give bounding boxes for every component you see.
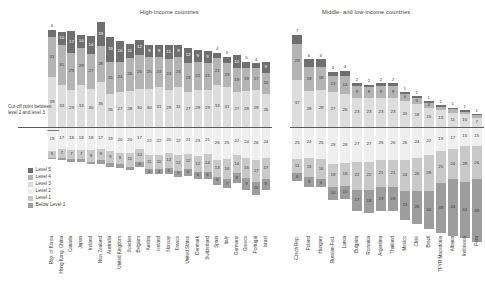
bar-value-label: 24	[414, 140, 419, 144]
bar-segment: 9	[87, 150, 95, 162]
bar-segment: 10	[77, 35, 85, 48]
category-label: Italy	[223, 236, 231, 290]
bar-segment: 11	[448, 113, 458, 127]
bar-segment: 27	[352, 127, 362, 162]
bar-value-label: 28	[127, 107, 132, 111]
category-label: Portugal	[252, 236, 260, 290]
bar-segment: 11	[165, 45, 173, 59]
legend-label: Level 5	[36, 168, 51, 173]
bar-value-label: 9	[99, 152, 101, 156]
bar-segment: 10	[328, 187, 338, 200]
bar-value-label: 5	[167, 169, 169, 173]
bar-value-label: 28	[98, 62, 103, 66]
legend-item: Level 5	[28, 168, 65, 173]
bar-value-label: 5	[177, 171, 179, 175]
bar-value-label: 26	[414, 205, 419, 209]
legend-swatch-icon	[28, 203, 33, 208]
bar-value-label: 26	[215, 141, 220, 145]
bar-segment: 9	[262, 62, 270, 74]
bar-column: 332910187	[77, 16, 85, 153]
bar-segment: 11	[126, 44, 134, 58]
bar-value-label: 18	[331, 173, 336, 177]
bar-segment: 18	[340, 163, 350, 186]
bar-column: 2826112011	[126, 16, 134, 162]
legend-label: Level 4	[36, 175, 51, 180]
bar-value-label: 2	[392, 78, 394, 82]
bar-segment: 3	[328, 72, 338, 76]
bar-segment: 33	[77, 85, 85, 127]
category-label-text: Hungary	[319, 236, 324, 253]
plot-area-high-income: 3931619533311017729291718733291018730271…	[48, 16, 270, 134]
bar-value-label: 10	[59, 36, 64, 40]
bar-segment: 6	[194, 172, 202, 180]
bar-value-label: 16	[244, 166, 249, 170]
category-label-text: Portugal	[254, 236, 259, 253]
bar-value-label: 24	[307, 140, 312, 144]
bar-segment: 22	[233, 127, 241, 155]
bar-segment: 6	[204, 172, 212, 180]
category-label: Hong Kong, China	[58, 236, 66, 290]
category-label: Indonesia	[460, 236, 470, 290]
bar-segment: 33	[58, 85, 66, 127]
bar-value-label: 18	[244, 77, 249, 81]
bar-segment: 11	[155, 155, 163, 169]
bar-value-label: 12	[166, 158, 171, 162]
bar-value-label: 24	[450, 162, 455, 166]
bar-segment: 19	[304, 67, 314, 91]
bar-value-label: 9	[197, 54, 199, 58]
bar-segment: 21	[204, 63, 212, 90]
bar-segment: 18	[87, 127, 95, 150]
category-label-text: Denmark	[196, 236, 201, 255]
bar-value-label: 24	[263, 140, 268, 144]
bar-segment: 26	[252, 127, 260, 160]
category-label-text: Mexico	[403, 236, 408, 251]
bar-value-label: 9	[177, 49, 179, 53]
bar-value-label: 21	[215, 69, 220, 73]
bar-value-label: 8	[368, 90, 370, 94]
bar-segment: 5	[412, 98, 422, 104]
bar-value-label: 25	[108, 76, 113, 80]
bar-value-label: 26	[343, 108, 348, 112]
bar-value-label: 11	[295, 164, 300, 168]
category-label-text: Albania	[450, 236, 455, 251]
category-label-text: Argentina	[379, 236, 384, 256]
bar-value-label: 31	[225, 105, 230, 109]
bar-segment: 29	[204, 90, 212, 127]
bar-value-label: 14	[234, 162, 239, 166]
bar-value-label: 49	[474, 209, 479, 213]
category-label-text: Brazil	[426, 236, 431, 248]
bar-value-label: 26	[127, 72, 132, 76]
bar-segment: 25	[145, 57, 153, 89]
bar-segment: 30	[135, 89, 143, 127]
bar-segment: 19	[376, 187, 386, 211]
bar-value-label: 23	[355, 110, 360, 114]
category-label-text: Japan	[79, 236, 84, 249]
category-label: Austria	[145, 236, 153, 290]
legend-swatch-icon	[28, 168, 33, 173]
bar-segment: 11	[145, 155, 153, 169]
bar-value-label: 23	[402, 203, 407, 207]
bar-value-label: 29	[69, 69, 74, 73]
bar-value-label: 16	[118, 49, 123, 53]
bar-value-label: 29	[331, 143, 336, 147]
bar-value-label: 24	[402, 173, 407, 177]
bar-value-label: 26	[254, 141, 259, 145]
bar-segment: 7	[67, 150, 75, 159]
bar-value-label: 1	[416, 91, 418, 95]
bar-value-label: 5	[226, 51, 228, 55]
bar-segment: 29	[194, 90, 202, 127]
bar-segment: 4	[155, 169, 163, 174]
bar-segment: 15	[472, 127, 482, 146]
category-label-text: Bulgaria	[355, 236, 360, 253]
category-label: New Zealand	[97, 236, 105, 290]
bar-segment: 26	[135, 55, 143, 88]
bar-segment: 26	[400, 127, 410, 160]
category-label-text: New Zealand	[98, 236, 103, 263]
bar-value-label: 25	[147, 70, 152, 74]
bar-value-label: 30	[88, 106, 93, 110]
bar-value-label: 22	[367, 173, 372, 177]
bar-value-label: 9	[90, 154, 92, 158]
category-label-text: Switzerland	[205, 236, 210, 260]
bar-value-label: 21	[186, 138, 191, 142]
legend-item: Level 3	[28, 182, 65, 187]
